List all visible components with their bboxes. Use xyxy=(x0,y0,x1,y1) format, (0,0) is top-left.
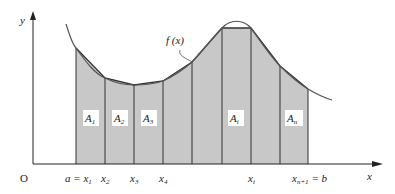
x-axis-arrow-icon xyxy=(372,161,383,167)
curve-label-leader xyxy=(180,50,192,62)
svg-text:x2: x2 xyxy=(100,172,110,186)
svg-text:x3: x3 xyxy=(129,172,139,186)
curve-label: f (x) xyxy=(166,34,184,47)
riemann-sum-diagram: f (x) y x O a = x1 x2 x3 x4 xi xn+1 = b … xyxy=(0,0,395,194)
x-axis-label: x xyxy=(366,170,372,182)
svg-text:xn+1 = b: xn+1 = b xyxy=(291,172,328,186)
svg-text:a = x1: a = x1 xyxy=(65,172,92,186)
x-tick-labels: a = x1 x2 x3 x4 xi xn+1 = b xyxy=(65,172,328,186)
svg-text:xi: xi xyxy=(247,172,255,186)
origin-label: O xyxy=(20,172,28,184)
svg-text:x4: x4 xyxy=(158,172,168,186)
y-axis-label: y xyxy=(19,14,25,26)
y-axis-arrow-icon xyxy=(30,11,36,20)
